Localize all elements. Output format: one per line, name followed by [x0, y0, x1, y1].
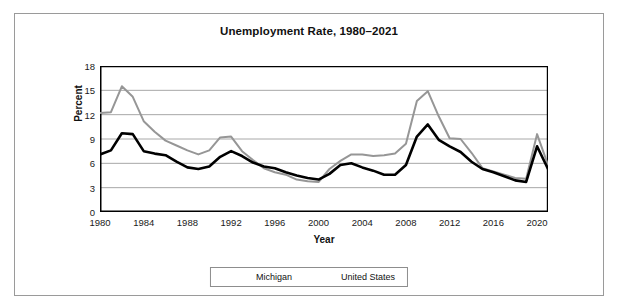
x-axis-title: Year [100, 234, 548, 245]
y-tick-label: 6 [90, 158, 95, 169]
x-tick-label: 1996 [264, 217, 285, 228]
series-line-united-states [100, 124, 548, 182]
x-tick-label: 1992 [221, 217, 242, 228]
x-tick-label: 1984 [133, 217, 154, 228]
x-tick-label: 2020 [526, 217, 547, 228]
x-tick-label: 1980 [89, 217, 110, 228]
legend-label-united-states: United States [341, 272, 395, 282]
y-tick-label: 0 [90, 207, 95, 218]
x-tick-label: 2008 [395, 217, 416, 228]
x-tick-label: 2004 [352, 217, 373, 228]
y-tick-label: 15 [84, 85, 95, 96]
legend-label-michigan: Michigan [256, 272, 292, 282]
y-tick-label: 18 [84, 61, 95, 72]
chart-figure-frame: Unemployment Rate, 1980–2021 Percent Yea… [14, 13, 604, 296]
legend-item-united-states[interactable]: United States [308, 272, 395, 282]
y-tick-label: 9 [90, 134, 95, 145]
legend-item-michigan[interactable]: Michigan [223, 272, 292, 282]
y-tick-label: 12 [84, 109, 95, 120]
y-tick-label: 3 [90, 182, 95, 193]
x-tick-label: 2012 [439, 217, 460, 228]
y-axis-title: Percent [73, 59, 84, 149]
x-tick-label: 2000 [308, 217, 329, 228]
x-tick-label: 2016 [483, 217, 504, 228]
plot-area: Percent Year 036912151819801984198819921… [100, 66, 548, 212]
chart-plot-svg [100, 66, 548, 212]
x-tick-label: 1988 [177, 217, 198, 228]
chart-title: Unemployment Rate, 1980–2021 [15, 25, 603, 37]
chart-legend: Michigan United States [210, 267, 408, 287]
